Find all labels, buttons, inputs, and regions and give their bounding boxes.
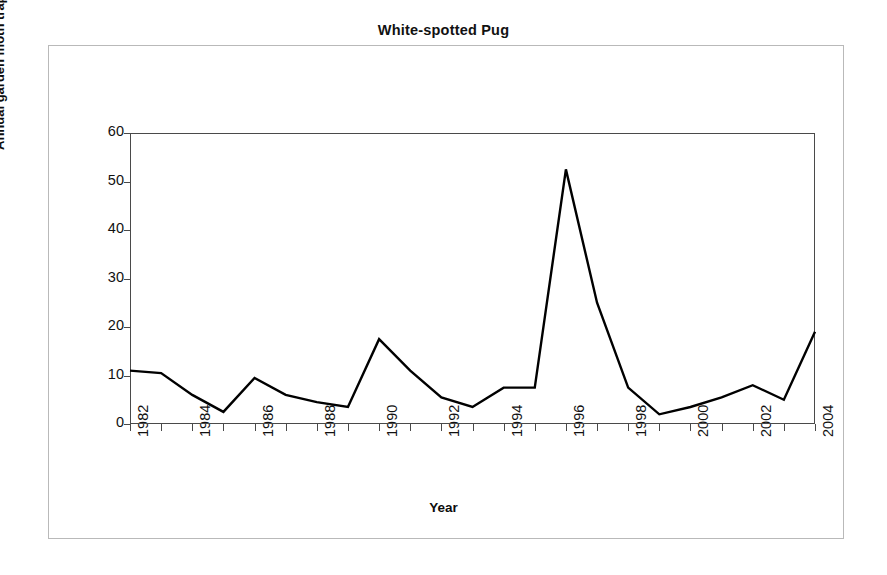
chart-page: White-spotted Pug Annual garden moth tra… — [0, 0, 887, 575]
y-tick-label: 0 — [94, 415, 124, 430]
x-tick-mark — [815, 424, 816, 431]
x-tick-mark — [223, 424, 224, 431]
x-tick-mark — [441, 424, 442, 431]
x-axis-title: Year — [0, 500, 887, 515]
x-tick-mark — [753, 424, 754, 431]
x-tick-mark — [659, 424, 660, 431]
x-tick-mark — [473, 424, 474, 431]
series-polyline — [130, 169, 815, 414]
x-tick-mark — [130, 424, 131, 431]
x-tick-mark — [722, 424, 723, 431]
y-axis-title: Annual garden moth trap total — [0, 0, 7, 150]
y-tick-label: 40 — [94, 221, 124, 236]
x-tick-mark — [255, 424, 256, 431]
data-series-line — [130, 133, 815, 424]
x-tick-mark — [379, 424, 380, 431]
x-tick-mark — [410, 424, 411, 431]
chart-title: White-spotted Pug — [0, 22, 887, 38]
y-tick-label: 50 — [94, 173, 124, 188]
x-tick-mark — [628, 424, 629, 431]
x-tick-label: 2004 — [821, 405, 836, 437]
x-tick-mark — [535, 424, 536, 431]
x-tick-mark — [161, 424, 162, 431]
y-tick-label: 10 — [94, 367, 124, 382]
x-tick-mark — [317, 424, 318, 431]
x-tick-mark — [784, 424, 785, 431]
x-tick-mark — [597, 424, 598, 431]
x-tick-mark — [192, 424, 193, 431]
y-tick-label: 20 — [94, 318, 124, 333]
x-tick-mark — [566, 424, 567, 431]
x-tick-mark — [286, 424, 287, 431]
x-tick-mark — [504, 424, 505, 431]
y-tick-label: 30 — [94, 270, 124, 285]
x-tick-mark — [690, 424, 691, 431]
plot-area — [130, 133, 815, 424]
x-tick-mark — [348, 424, 349, 431]
y-tick-label: 60 — [94, 124, 124, 139]
y-axis-tick-labels: 0102030405060 — [92, 133, 124, 424]
